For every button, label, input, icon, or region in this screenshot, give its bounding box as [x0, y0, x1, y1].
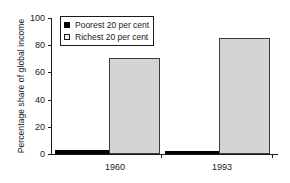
- y-tick-label: 40: [35, 95, 45, 104]
- y-tick-mark: [48, 154, 51, 155]
- x-tick-mark-2: [272, 155, 273, 158]
- y-axis-title: Percentage share of global income: [14, 6, 28, 166]
- y-tick-label: 80: [35, 41, 45, 50]
- x-tick-label-1993: 1993: [212, 162, 232, 172]
- legend-item-poorest: Poorest 20 per cent: [64, 19, 149, 31]
- chart-legend: Poorest 20 per cent Richest 20 per cent: [60, 16, 154, 46]
- legend-item-richest: Richest 20 per cent: [64, 31, 149, 43]
- bar-poorest-1960: [55, 150, 109, 154]
- legend-swatch-filled-square-icon: [64, 22, 70, 28]
- y-tick-label: 20: [35, 122, 45, 131]
- x-tick-mark-1: [161, 155, 162, 158]
- y-tick-label: 60: [35, 68, 45, 77]
- y-tick-mark: [48, 18, 51, 19]
- y-tick-label: 100: [30, 14, 45, 23]
- x-axis-line: [51, 154, 278, 155]
- y-tick-label: 0: [40, 150, 45, 159]
- bar-richest-1960: [109, 58, 160, 154]
- legend-label-poorest: Poorest 20 per cent: [75, 20, 149, 31]
- y-tick-mark: [48, 100, 51, 101]
- bar-richest-1993: [219, 38, 270, 154]
- legend-label-richest: Richest 20 per cent: [75, 32, 148, 43]
- y-axis-line: [51, 18, 52, 155]
- y-tick-mark: [48, 127, 51, 128]
- y-tick-mark: [48, 45, 51, 46]
- y-tick-mark: [48, 72, 51, 73]
- legend-swatch-outlined-square-icon: [64, 34, 70, 40]
- bar-chart-figure: Percentage share of global income 100 80…: [0, 0, 290, 183]
- x-tick-label-1960: 1960: [105, 162, 125, 172]
- bar-poorest-1993: [165, 151, 219, 154]
